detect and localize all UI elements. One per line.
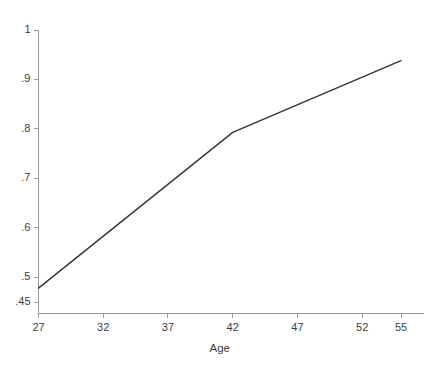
x-tick-label: 27 [19,322,59,333]
x-tick-label: 55 [381,322,421,333]
y-tick-label: .8 [21,123,30,134]
y-tick-label: .45 [15,296,30,307]
data-series-line [39,61,402,288]
x-tick-label: 52 [342,322,382,333]
y-tick-label: .6 [21,222,30,233]
x-tick-label: 37 [148,322,188,333]
y-tick-label: .9 [21,73,30,84]
x-tick-label: 47 [277,322,317,333]
y-tick-label: 1 [24,24,30,35]
x-tick-label: 42 [213,322,253,333]
chart-container: .45.5.6.7.8.91 27323742475255 Age [0,0,427,368]
chart-tick-marks [34,30,402,318]
y-tick-label: .5 [21,271,30,282]
chart-axes [39,30,425,313]
line-chart-plot [0,0,427,368]
series-line-predicted [39,61,402,288]
y-tick-label: .7 [21,172,30,183]
x-axis-title: Age [39,342,402,354]
x-tick-label: 32 [83,322,123,333]
